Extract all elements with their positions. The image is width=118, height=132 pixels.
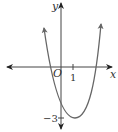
parabola-curve-right bbox=[75, 24, 101, 118]
x-axis-label: x bbox=[110, 68, 117, 81]
parabola-graph: y x O 1 −3 bbox=[0, 0, 118, 132]
x-tick-label-1: 1 bbox=[70, 72, 76, 83]
origin-label: O bbox=[53, 67, 62, 80]
y-tick-label-neg3: −3 bbox=[43, 113, 58, 124]
y-axis-label: y bbox=[51, 0, 59, 13]
